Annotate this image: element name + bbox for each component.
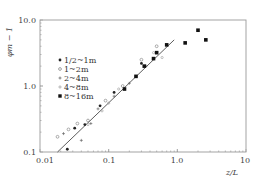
data-point — [118, 88, 120, 90]
x-tick-0-01: 0.01 — [36, 156, 54, 165]
data-point — [113, 95, 116, 98]
data-point — [104, 99, 107, 102]
y-tick-10: 10.0 — [18, 16, 36, 25]
data-point — [155, 45, 158, 48]
data-point — [89, 122, 92, 125]
legend: 1/2~1m 1~2m 2~4m 4~8m 8~16m — [58, 56, 96, 101]
data-point — [97, 107, 100, 110]
data-point — [196, 28, 200, 32]
series-5 — [123, 28, 208, 90]
data-point — [134, 75, 138, 79]
x-tick-10: 10 — [240, 156, 250, 165]
data-point — [183, 41, 187, 45]
legend-item-2: 1~2m — [59, 65, 89, 74]
data-point — [113, 91, 116, 94]
data-point — [99, 104, 102, 107]
legend-label-1: 1/2~1m — [64, 56, 97, 65]
x-tick-0-1: 0.1 — [103, 156, 116, 165]
data-point — [62, 132, 65, 135]
y-axis-label: φm − 1 — [5, 27, 14, 57]
data-point — [140, 58, 143, 61]
data-point — [73, 127, 76, 130]
y-tick-1: 1.0 — [23, 82, 36, 91]
data-point — [140, 62, 143, 65]
scatter-chart: 10.0 1.0 0.1 0.01 0.1 1.0 10 z/L φm − 1 … — [0, 0, 260, 185]
data-point — [155, 51, 159, 55]
data-point — [76, 122, 79, 125]
data-point — [87, 124, 89, 126]
y-axis-minor-ticks — [40, 20, 43, 152]
legend-label-5: 8~16m — [64, 92, 94, 101]
legend-label-4: 4~8m — [64, 83, 89, 92]
x-axis-tick-labels: 0.01 0.1 1.0 10 — [36, 156, 250, 165]
data-point — [123, 87, 127, 91]
data-point — [142, 64, 146, 68]
x-axis-label: z/L — [225, 168, 238, 177]
data-point — [66, 148, 69, 151]
data-point — [204, 38, 208, 42]
data-point — [165, 43, 169, 47]
legend-item-4: 4~8m — [59, 83, 89, 92]
y-axis-tick-labels: 10.0 1.0 0.1 — [18, 16, 36, 157]
data-point — [161, 56, 163, 58]
data-point — [56, 135, 59, 138]
data-point — [152, 57, 156, 61]
data-point — [67, 128, 70, 131]
legend-label-2: 1~2m — [64, 65, 89, 74]
legend-item-5: 8~16m — [58, 92, 94, 101]
legend-label-3: 2~4m — [64, 74, 89, 83]
legend-item-3: 2~4m — [59, 74, 89, 83]
x-tick-1: 1.0 — [171, 156, 184, 165]
data-point — [101, 110, 103, 112]
y-tick-0-1: 0.1 — [23, 148, 36, 157]
data-point — [80, 139, 83, 142]
legend-item-1: 1/2~1m — [59, 56, 97, 65]
data-point — [152, 52, 154, 54]
data-point — [121, 85, 124, 88]
data-point — [83, 123, 86, 126]
data-point — [87, 119, 90, 122]
